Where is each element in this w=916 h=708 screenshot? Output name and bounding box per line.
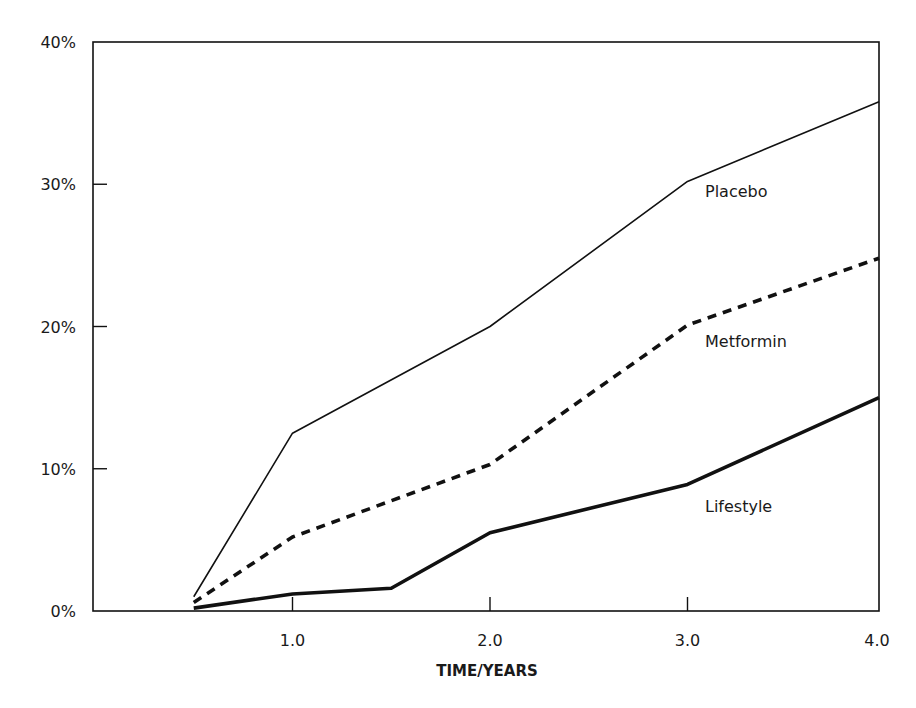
series-line-lifestyle [194,398,879,609]
series-lines [194,102,879,608]
x-axis: 1.02.03.04.0 [280,597,890,650]
series-label-lifestyle: Lifestyle [705,497,772,516]
y-axis: 0%10%20%30%40% [40,33,107,621]
x-tick-label: 2.0 [477,631,502,650]
x-tick-label: 3.0 [675,631,700,650]
series-label-metformin: Metformin [705,332,787,351]
x-tick-label: 4.0 [864,631,889,650]
line-chart: 0%10%20%30%40% 1.02.03.04.0 PlaceboMetfo… [0,0,916,708]
y-tick-label: 0% [51,602,76,621]
y-tick-label: 40% [40,33,76,52]
y-tick-label: 30% [40,175,76,194]
y-tick-label: 10% [40,460,76,479]
x-tick-label: 1.0 [280,631,305,650]
y-tick-label: 20% [40,318,76,337]
series-label-placebo: Placebo [705,182,767,201]
plot-frame [93,42,879,611]
plot-border [93,42,879,611]
series-labels: PlaceboMetforminLifestyle [705,182,787,515]
x-axis-title: TIME/YEARS [436,662,538,680]
